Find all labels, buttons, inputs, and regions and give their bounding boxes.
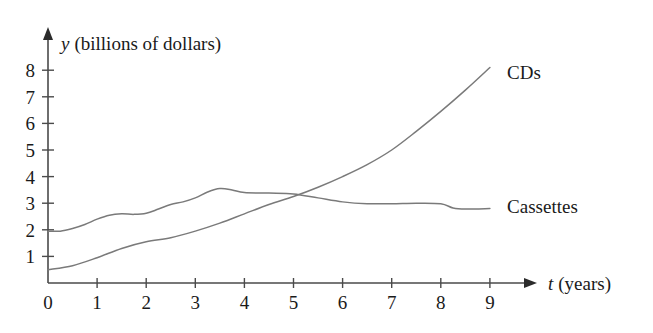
y-tick-label: 3 [26,193,36,214]
x-tick-label: 5 [289,292,299,313]
series-line-cds [48,68,490,270]
y-axis-arrow-icon [43,27,53,40]
series-label-cassettes: Cassettes [507,196,578,217]
x-axis-arrow-icon [524,278,537,288]
series-line-cassettes [48,188,490,231]
series-labels-group: CassettesCDs [507,62,578,217]
x-axis-caption: t(years) [548,273,611,295]
line-chart: 0123456789 12345678 CassettesCDs y(billi… [0,0,653,333]
y-tick-label: 8 [26,60,36,81]
x-tick-label: 6 [338,292,348,313]
axes-group [43,27,537,288]
series-label-cds: CDs [507,62,541,83]
x-tick-label: 3 [191,292,201,313]
x-tick-label: 1 [92,292,102,313]
y-tick-label: 5 [26,140,36,161]
x-tick-label: 0 [43,292,53,313]
series-paths-group [48,68,490,270]
y-tick-label: 7 [26,87,36,108]
y-tick-label: 1 [26,246,36,267]
y-tick-label: 6 [26,113,36,134]
x-tick-label: 2 [141,292,151,313]
y-tick-label: 4 [26,167,36,188]
y-axis-ticks: 12345678 [26,60,55,267]
x-tick-label: 4 [240,292,250,313]
y-axis-caption: y(billions of dollars) [59,33,221,55]
x-tick-label: 9 [485,292,495,313]
y-tick-label: 2 [26,220,36,241]
x-tick-label: 8 [436,292,446,313]
x-tick-label: 7 [387,292,397,313]
chart-figure: 0123456789 12345678 CassettesCDs y(billi… [0,0,653,333]
